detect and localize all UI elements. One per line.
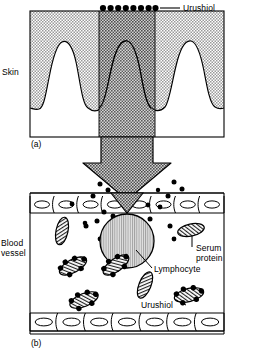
diagram-canvas — [0, 0, 253, 357]
label-skin: Skin — [2, 67, 19, 77]
panel-marker-b: (b) — [31, 338, 41, 348]
panel-b-blood-vessel — [30, 180, 224, 335]
panel-marker-a: (a) — [31, 139, 41, 149]
panel-a-skin — [30, 5, 224, 137]
figure-urushiol-skin-penetration: Skin Urushiol (a) Blood vessel Serum pro… — [0, 0, 253, 357]
urushiol-surface-dots — [100, 5, 159, 11]
label-lymphocyte: Lymphocyte — [154, 264, 201, 274]
label-urushiol-top: Urushiol — [183, 3, 215, 13]
label-urushiol-bottom: Urushiol — [141, 300, 173, 310]
label-serum-protein: Serum protein — [196, 243, 223, 263]
label-blood-vessel: Blood vessel — [1, 238, 26, 258]
